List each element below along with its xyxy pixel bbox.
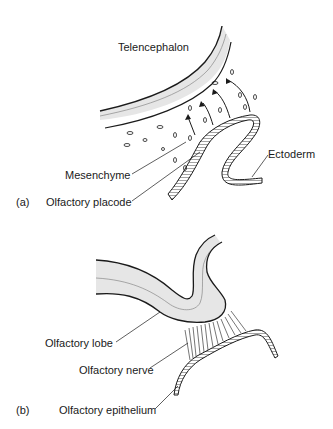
panel-tag-a: (a) [16,196,29,208]
label-olfactory-nerve: Olfactory nerve [79,364,154,376]
label-ectoderm: Ectoderm [268,148,315,160]
label-telencephalon: Telencephalon [118,41,189,53]
label-olfactory-epithelium: Olfactory epithelium [59,404,156,416]
olfactory-lobe-shape [96,235,226,322]
label-mesenchyme: Mesenchyme [65,169,130,181]
label-olfactory-lobe: Olfactory lobe [45,337,113,349]
panel-tag-b: (b) [16,404,29,416]
olfactory-placode [168,115,262,200]
diagram-canvas [0,0,333,429]
olfactory-epithelium [174,330,278,395]
label-olfactory-placode: Olfactory placode [46,196,132,208]
